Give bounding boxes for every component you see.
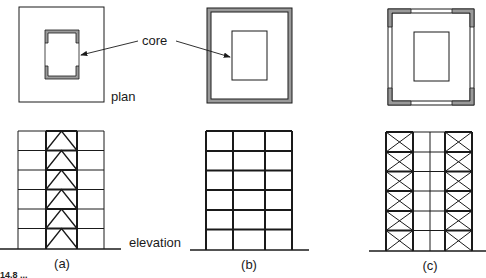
- plan-c: [388, 9, 474, 105]
- elevation-b: [190, 131, 309, 250]
- plan-label: plan: [111, 89, 136, 104]
- elevation-a: [0, 131, 121, 249]
- structural-systems-diagram: core plan elevation: [0, 0, 486, 278]
- panel-label-c: (c): [422, 258, 437, 273]
- arrow-to-core-a: [81, 41, 138, 55]
- panel-label-a: (a): [54, 256, 70, 271]
- plan-a: [19, 7, 104, 102]
- plan-b: [207, 8, 292, 103]
- elevation-label: elevation: [129, 235, 181, 250]
- panel-label-b: (b): [241, 257, 257, 272]
- core-label: core: [142, 33, 167, 48]
- core-walls-a: [45, 30, 79, 79]
- elevation-c: [369, 132, 486, 251]
- figure-caption-fragment: 14.8 ...: [0, 271, 28, 278]
